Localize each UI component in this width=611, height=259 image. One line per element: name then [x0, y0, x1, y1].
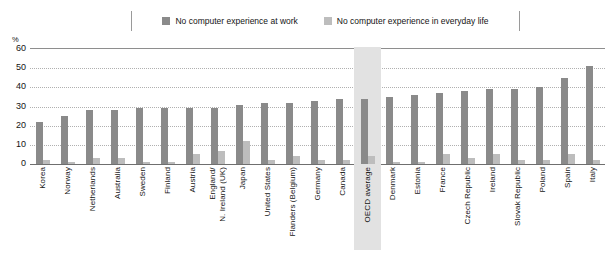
legend-label-work: No computer experience at work [175, 16, 297, 26]
bar-no-computer-experience-at-work [586, 66, 593, 164]
bar-no-computer-experience-in-everyday-life [193, 154, 200, 164]
bar-no-computer-experience-in-everyday-life [568, 154, 575, 164]
bar-no-computer-experience-in-everyday-life [293, 156, 300, 164]
bar-group [55, 49, 80, 164]
legend-label-life: No computer experience in everyday life [337, 16, 489, 26]
bar-no-computer-experience-in-everyday-life [68, 162, 75, 164]
x-axis-label-cell: Ireland [480, 167, 505, 255]
bar-group [330, 49, 355, 164]
bar-group [205, 49, 230, 164]
bar-group [105, 49, 130, 164]
x-axis-label-cell: Slovak Republic [505, 167, 530, 255]
chart-legend: No computer experience at work No comput… [131, 11, 520, 31]
bar-no-computer-experience-in-everyday-life [318, 160, 325, 164]
x-axis-label-cell: Spain [555, 167, 580, 255]
x-axis-tick-label: Denmark [388, 167, 398, 202]
x-axis-tick-label: Germany [313, 167, 323, 203]
x-axis-label-cell: Czech Republic [455, 167, 480, 255]
x-axis-tick-label: Canada [338, 167, 348, 198]
x-axis-label-cell: Germany [305, 167, 330, 255]
bar-no-computer-experience-in-everyday-life [543, 160, 550, 164]
bar-group [430, 49, 455, 164]
x-axis-label-cell: Korea [30, 167, 55, 255]
bar-no-computer-experience-at-work [561, 78, 568, 164]
x-axis-label-cell: United States [255, 167, 280, 255]
y-axis-tick-label: 30 [16, 100, 26, 110]
bar-group [305, 49, 330, 164]
x-axis-tick-label: Italy [588, 167, 598, 184]
x-axis-label-cell: Canada [330, 167, 355, 255]
bar-no-computer-experience-in-everyday-life [143, 162, 150, 164]
bar-no-computer-experience-in-everyday-life [268, 160, 275, 164]
x-axis-tick-label: Ireland [488, 167, 498, 194]
bar-group [355, 49, 380, 164]
bar-series-container [30, 49, 605, 164]
bar-no-computer-experience-at-work [36, 122, 43, 164]
bar-no-computer-experience-in-everyday-life [493, 154, 500, 164]
bar-no-computer-experience-in-everyday-life [518, 160, 525, 164]
x-axis-label-cell: Flanders (Belgium) [280, 167, 305, 255]
y-axis-tick-label: 60 [16, 43, 26, 53]
bar-no-computer-experience-at-work [511, 89, 518, 164]
bar-no-computer-experience-in-everyday-life [118, 158, 125, 164]
bar-no-computer-experience-in-everyday-life [93, 158, 100, 164]
bar-no-computer-experience-at-work [111, 110, 118, 164]
bar-no-computer-experience-at-work [61, 116, 68, 164]
bar-no-computer-experience-at-work [261, 103, 268, 164]
legend-entry-life: No computer experience in everyday life [324, 16, 489, 26]
x-axis-tick-label: Sweden [138, 167, 148, 199]
x-axis-label-cell: Finland [155, 167, 180, 255]
x-axis-tick-label: OECD average [363, 167, 373, 224]
bar-group [80, 49, 105, 164]
bar-group [555, 49, 580, 164]
bar-group [230, 49, 255, 164]
bar-group [30, 49, 55, 164]
x-axis-label-cell: England/ N. Ireland (UK) [205, 167, 230, 255]
x-axis-label-cell: Estonia [405, 167, 430, 255]
bar-group [455, 49, 480, 164]
x-axis-label-cell: Netherlands [80, 167, 105, 255]
bar-no-computer-experience-at-work [286, 103, 293, 164]
x-axis-label-cell: OECD average [355, 167, 380, 255]
bar-no-computer-experience-at-work [211, 108, 218, 164]
x-axis-labels: KoreaNorwayNetherlandsAustraliaSwedenFin… [30, 167, 605, 255]
x-axis-label-cell: Denmark [380, 167, 405, 255]
bar-no-computer-experience-at-work [236, 105, 243, 164]
x-axis-tick-label: United States [263, 167, 273, 218]
x-axis-tick-label: Japan [238, 167, 248, 191]
x-axis-tick-label: England/ N. Ireland (UK) [208, 167, 227, 224]
x-axis-tick-label: Korea [38, 167, 48, 191]
x-axis-label-cell: Australia [105, 167, 130, 255]
x-axis-tick-label: France [438, 167, 448, 195]
bar-no-computer-experience-at-work [436, 93, 443, 164]
bar-no-computer-experience-in-everyday-life [418, 162, 425, 164]
bar-no-computer-experience-in-everyday-life [43, 160, 50, 164]
x-axis-tick-label: Finland [163, 167, 173, 196]
chart-figure: No computer experience at work No comput… [0, 0, 611, 259]
plot-area: 6050403020100 [30, 48, 605, 165]
y-axis-tick-label: 40 [16, 81, 26, 91]
bar-group [530, 49, 555, 164]
bar-no-computer-experience-at-work [136, 108, 143, 164]
x-axis-tick-label: Czech Republic [463, 167, 473, 226]
bar-group [380, 49, 405, 164]
bar-no-computer-experience-in-everyday-life [243, 141, 250, 164]
bar-group [280, 49, 305, 164]
bar-no-computer-experience-in-everyday-life [468, 158, 475, 164]
bar-no-computer-experience-in-everyday-life [168, 162, 175, 164]
x-axis-tick-label: Netherlands [88, 167, 98, 213]
bar-no-computer-experience-at-work [361, 99, 368, 164]
x-axis-tick-label: Austria [188, 167, 198, 195]
bar-group [480, 49, 505, 164]
x-axis-tick-label: Australia [113, 167, 123, 201]
legend-entry-work: No computer experience at work [162, 16, 297, 26]
x-axis-label-cell: Sweden [130, 167, 155, 255]
x-axis-tick-label: Flanders (Belgium) [288, 167, 298, 238]
y-axis-tick-label: 20 [16, 119, 26, 129]
x-axis-label-cell: Japan [230, 167, 255, 255]
bar-group [130, 49, 155, 164]
bar-no-computer-experience-at-work [461, 91, 468, 164]
bar-no-computer-experience-at-work [161, 108, 168, 164]
y-axis-tick-label: 0 [21, 158, 26, 168]
x-axis-label-cell: France [430, 167, 455, 255]
